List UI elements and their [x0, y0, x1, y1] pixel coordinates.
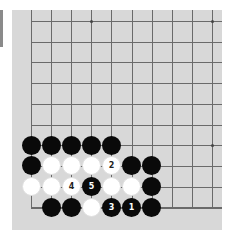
move-number-label: 1 — [129, 203, 135, 212]
move-number-label: 5 — [89, 182, 95, 191]
black-stone — [22, 136, 41, 155]
star-point — [90, 20, 93, 23]
white-stone — [42, 177, 61, 196]
white-stone: 2 — [102, 156, 121, 175]
black-stone: 5 — [82, 177, 101, 196]
white-stone — [102, 177, 121, 196]
grid-horizontal-line — [31, 62, 222, 63]
black-stone — [62, 198, 81, 217]
black-stone — [122, 156, 141, 175]
black-stone: 3 — [102, 198, 121, 217]
black-stone — [142, 156, 161, 175]
white-stone — [62, 156, 81, 175]
star-point — [211, 20, 214, 23]
black-stone — [42, 136, 61, 155]
grid-vertical-line — [172, 10, 173, 208]
grid-horizontal-line — [31, 83, 222, 84]
side-tab — [0, 10, 3, 47]
star-point — [211, 144, 214, 147]
black-stone — [62, 136, 81, 155]
black-stone — [142, 177, 161, 196]
black-stone — [102, 136, 121, 155]
go-board[interactable]: 24531 — [12, 10, 222, 230]
black-stone — [82, 136, 101, 155]
grid-vertical-line — [192, 10, 193, 208]
grid-horizontal-line — [31, 42, 222, 43]
grid-horizontal-line — [31, 21, 222, 22]
black-stone — [22, 156, 41, 175]
grid-vertical-line — [212, 10, 213, 208]
white-stone — [82, 156, 101, 175]
grid-horizontal-line — [31, 125, 222, 126]
white-stone — [42, 156, 61, 175]
white-stone — [122, 177, 141, 196]
black-stone — [142, 198, 161, 217]
move-number-label: 4 — [69, 182, 75, 191]
white-stone — [22, 177, 41, 196]
black-stone — [42, 198, 61, 217]
white-stone — [82, 198, 101, 217]
black-stone: 1 — [122, 198, 141, 217]
grid-horizontal-line — [31, 104, 222, 105]
move-number-label: 2 — [109, 161, 115, 170]
white-stone: 4 — [62, 177, 81, 196]
move-number-label: 3 — [109, 203, 115, 212]
